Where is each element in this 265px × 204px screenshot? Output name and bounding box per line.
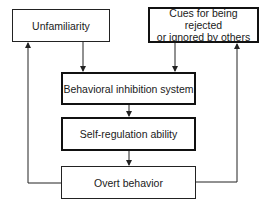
node-behavioral-inhibition-system: Behavioral inhibition system: [61, 72, 196, 105]
node-label-line2: or ignored by others: [157, 31, 250, 43]
node-label-line1: Cues for being rejected: [150, 7, 257, 31]
node-self-regulation-ability: Self-regulation ability: [61, 117, 196, 151]
arrow-overt-to-cues: [196, 44, 237, 182]
node-overt-behavior: Overt behavior: [61, 166, 196, 199]
node-label: Overt behavior: [94, 177, 163, 189]
arrow-overt-to-unfamiliarity: [28, 43, 61, 183]
node-cues-rejected: Cues for being rejected or ignored by ot…: [148, 7, 259, 43]
node-label: Behavioral inhibition system: [63, 83, 193, 95]
node-label: Self-regulation ability: [80, 128, 177, 140]
node-label: Unfamiliarity: [32, 20, 90, 32]
node-unfamiliarity: Unfamiliarity: [12, 9, 110, 42]
